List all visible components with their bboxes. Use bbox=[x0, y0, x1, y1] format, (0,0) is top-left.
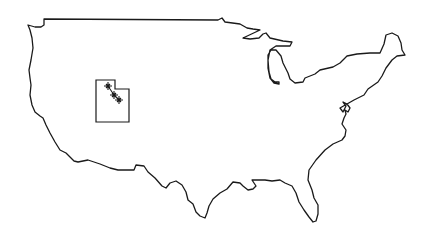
us-map bbox=[0, 0, 425, 235]
us-outline bbox=[28, 18, 405, 222]
utah-outline bbox=[96, 80, 129, 122]
